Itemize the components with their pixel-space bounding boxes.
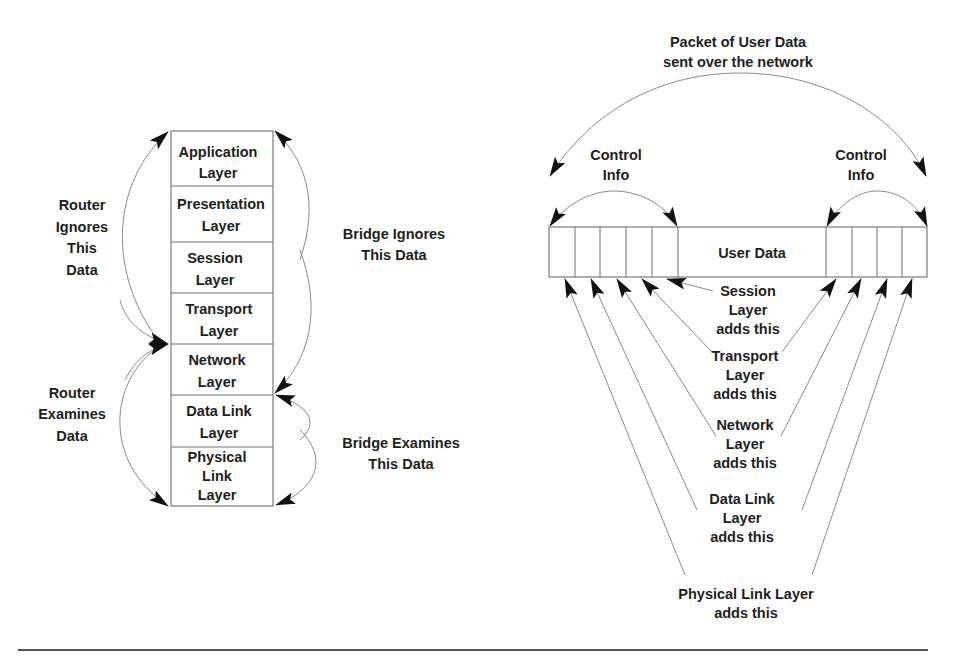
bridge-examines-label: Bridge Examines This Data (342, 435, 460, 472)
svg-text:adds this: adds this (713, 386, 777, 402)
arrow-right-icon (740, 73, 926, 176)
bridge-examines-arc (276, 395, 316, 505)
router-ignores-label: Router Ignores This Data (56, 197, 108, 278)
arrow-down-icon (275, 250, 311, 393)
arrow-down-icon (120, 300, 168, 344)
arrow-up-icon (275, 131, 309, 260)
svg-text:adds this: adds this (714, 605, 778, 621)
svg-text:Bridge Examines: Bridge Examines (342, 435, 460, 451)
layer-presentation-suffix: Layer (202, 218, 241, 234)
svg-text:Router: Router (49, 385, 96, 401)
network-adds-label: Network Layer adds this (713, 417, 777, 471)
arrow-down-icon (120, 350, 168, 506)
svg-text:This: This (67, 240, 97, 256)
arrow-down-icon (276, 430, 316, 505)
transport-adds-label: Transport Layer adds this (712, 348, 779, 402)
layer-session-suffix: Layer (196, 272, 235, 288)
arrow-session-icon (667, 279, 713, 291)
svg-text:Ignores: Ignores (56, 219, 108, 235)
arrow-network-right-icon (781, 279, 861, 436)
datalink-adds-label: Data Link Layer adds this (709, 491, 775, 545)
svg-text:adds this: adds this (710, 529, 774, 545)
physical-adds-label: Physical Link Layer adds this (678, 586, 814, 621)
svg-text:Data: Data (56, 428, 88, 444)
arrow-left-icon (550, 191, 614, 226)
layer-data-link-name: Data Link (186, 403, 252, 419)
svg-text:Network: Network (716, 417, 774, 433)
svg-text:Router: Router (59, 197, 106, 213)
arrow-transport-right-icon (782, 279, 836, 352)
packet-box: User Data (549, 227, 927, 277)
svg-text:sent over the network: sent over the network (663, 54, 814, 70)
arrow-left-icon (827, 191, 877, 226)
svg-text:Bridge Ignores: Bridge Ignores (343, 226, 445, 242)
arrow-right-icon (877, 191, 927, 226)
arrow-left-icon (550, 73, 740, 176)
control-info-left-arc (550, 191, 677, 226)
layer-data-link-suffix: Layer (200, 425, 239, 441)
svg-text:Layer: Layer (723, 510, 762, 526)
bridge-ignores-label: Bridge Ignores This Data (343, 226, 445, 263)
svg-text:Examines: Examines (38, 406, 106, 422)
svg-text:This Data: This Data (368, 456, 434, 472)
svg-text:Data Link: Data Link (709, 491, 775, 507)
layer-transport-suffix: Layer (200, 323, 239, 339)
layer-application-name: Application (179, 144, 258, 160)
router-examines-label: Router Examines Data (38, 385, 106, 444)
router-ignores-arc (120, 132, 168, 344)
svg-text:Layer: Layer (726, 436, 765, 452)
svg-text:Session: Session (720, 283, 776, 299)
arrow-datalink-right-icon (802, 279, 887, 510)
arrow-up-icon (276, 395, 310, 440)
svg-text:Layer: Layer (726, 367, 765, 383)
router-examines-arc (120, 344, 168, 506)
control-info-left-label: Control Info (590, 147, 642, 183)
svg-text:Control: Control (590, 147, 642, 163)
arrow-up-icon (125, 344, 168, 380)
svg-text:Packet of User Data: Packet of User Data (670, 34, 807, 50)
layer-network-name: Network (188, 352, 246, 368)
layer-physical-link: Link (202, 468, 233, 484)
control-info-right-arc (827, 191, 927, 226)
svg-text:Transport: Transport (712, 348, 779, 364)
layer-application-suffix: Layer (199, 165, 238, 181)
svg-text:Info: Info (603, 167, 630, 183)
svg-text:adds this: adds this (713, 455, 777, 471)
network-layers-diagram: Application Layer Presentation Layer Ses… (0, 0, 959, 666)
layer-network-suffix: Layer (198, 374, 237, 390)
arrow-transport-left-icon (642, 279, 712, 352)
bridge-ignores-arc (275, 131, 311, 393)
osi-stack: Application Layer Presentation Layer Ses… (171, 131, 273, 506)
arrow-datalink-left-icon (591, 279, 697, 510)
control-info-right-label: Control Info (835, 147, 887, 183)
arrow-network-left-icon (617, 279, 716, 436)
svg-text:This Data: This Data (361, 247, 427, 263)
layer-physical-suffix: Layer (198, 487, 237, 503)
svg-text:Info: Info (848, 167, 875, 183)
arrow-right-icon (614, 191, 677, 226)
user-data-label: User Data (718, 245, 787, 261)
svg-text:adds this: adds this (716, 321, 780, 337)
svg-text:Control: Control (835, 147, 887, 163)
packet-title: Packet of User Data sent over the networ… (663, 34, 814, 70)
svg-text:Physical Link Layer: Physical Link Layer (678, 586, 814, 602)
layer-physical-name: Physical (188, 449, 247, 465)
arrow-physical-right-icon (812, 279, 912, 575)
svg-text:Data: Data (66, 262, 98, 278)
arrow-up-icon (122, 132, 168, 333)
arrow-physical-left-icon (565, 279, 685, 575)
session-adds-label: Session Layer adds this (716, 283, 780, 337)
layer-transport-name: Transport (186, 301, 253, 317)
layer-session-name: Session (187, 250, 243, 266)
layer-presentation-name: Presentation (177, 196, 265, 212)
svg-text:Layer: Layer (729, 302, 768, 318)
